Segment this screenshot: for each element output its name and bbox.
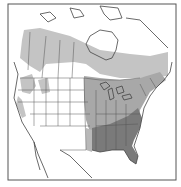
range-map — [0, 0, 181, 187]
texas-patch — [86, 128, 92, 152]
north-america-map — [0, 0, 181, 187]
